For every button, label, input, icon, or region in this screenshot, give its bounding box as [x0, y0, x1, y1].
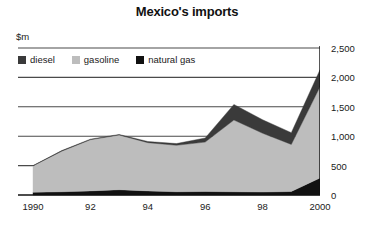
x-axis-tick-label: 2000 — [309, 201, 330, 212]
chart-title: Mexico's imports — [0, 4, 374, 19]
x-axis-tick-label: 96 — [200, 201, 211, 212]
y-axis-tick-label: 0 — [331, 190, 336, 201]
x-axis-tick-label: 1990 — [22, 201, 43, 212]
stacked-area-plot — [18, 46, 320, 196]
y-axis-tick-label: 2,500 — [331, 43, 355, 54]
x-axis-tick-label: 94 — [143, 201, 154, 212]
plot-area — [18, 46, 320, 196]
x-axis: 1990929496982000 — [0, 201, 374, 221]
chart-container: Mexico's imports $m dieselgasolinenatura… — [0, 0, 374, 226]
area-series-gasoline — [33, 87, 320, 193]
x-axis-tick-label: 92 — [85, 201, 96, 212]
y-axis: 05001,0001,5002,0002,500 — [331, 0, 374, 226]
x-axis-tick-label: 98 — [257, 201, 268, 212]
y-axis-unit-label: $m — [16, 31, 29, 42]
y-axis-tick-label: 1,500 — [331, 101, 355, 112]
y-axis-tick-label: 1,000 — [331, 131, 355, 142]
y-axis-tick-label: 500 — [331, 160, 347, 171]
y-axis-tick-label: 2,000 — [331, 72, 355, 83]
